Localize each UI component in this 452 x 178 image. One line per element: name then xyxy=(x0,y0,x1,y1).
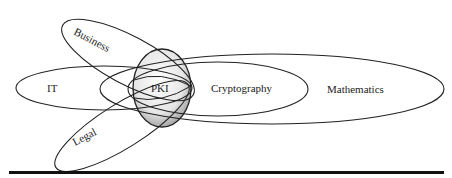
pki-venn-diagram: Business IT Legal PKI Cryptography Mathe… xyxy=(0,0,452,178)
bottom-rule xyxy=(9,171,444,174)
label-cryptography: Cryptography xyxy=(211,82,273,94)
label-legal: Legal xyxy=(70,125,98,147)
label-it: IT xyxy=(47,82,58,94)
label-mathematics: Mathematics xyxy=(327,83,384,95)
label-pki: PKI xyxy=(151,82,169,94)
label-business: Business xyxy=(72,25,112,54)
